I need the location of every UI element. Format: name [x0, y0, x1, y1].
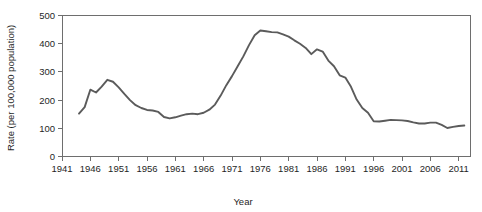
- x-tick-label: 1981: [278, 163, 299, 174]
- data-series-group: [79, 30, 464, 128]
- y-tick-label: 400: [39, 38, 55, 49]
- x-tick-label: 1976: [250, 163, 271, 174]
- x-tick-label: 2001: [391, 163, 412, 174]
- y-tick-label: 100: [39, 123, 55, 134]
- y-tick-label: 200: [39, 95, 55, 106]
- y-tick-label: 300: [39, 66, 55, 77]
- x-tick-label: 2006: [420, 163, 441, 174]
- line-chart-figure: 0100200300400500 19411946195119561961196…: [0, 0, 482, 212]
- x-axis: 1941194619511956196119661971197619811986…: [51, 157, 468, 174]
- plot-border: [62, 16, 470, 157]
- chart-canvas: 0100200300400500 19411946195119561961196…: [0, 0, 482, 212]
- x-tick-label: 1991: [335, 163, 356, 174]
- x-tick-label: 1986: [306, 163, 327, 174]
- x-tick-label: 1996: [363, 163, 384, 174]
- y-axis-title: Rate (per 100,000 population): [5, 25, 16, 151]
- plot-frame: [62, 16, 470, 157]
- x-tick-label: 1961: [165, 163, 186, 174]
- y-tick-label: 500: [39, 10, 55, 21]
- y-tick-label: 0: [50, 151, 55, 162]
- x-axis-title: Year: [233, 196, 252, 207]
- x-tick-label: 1966: [193, 163, 214, 174]
- x-tick-label: 1956: [136, 163, 157, 174]
- x-tick-label: 1951: [108, 163, 129, 174]
- x-tick-label: 1941: [51, 163, 72, 174]
- y-axis: 0100200300400500: [39, 10, 62, 162]
- data-series-line: [79, 30, 464, 128]
- x-tick-label: 1946: [80, 163, 101, 174]
- x-tick-label: 2011: [448, 163, 468, 174]
- x-tick-label: 1971: [221, 163, 242, 174]
